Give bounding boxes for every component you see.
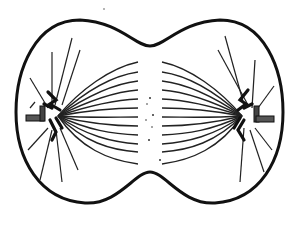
midzone-speckles (103, 8, 161, 161)
centriole-left (26, 106, 45, 121)
spindle-fibers-right (162, 62, 242, 164)
centriole-right (254, 106, 274, 122)
cell-membrane (16, 20, 283, 203)
spindle-fibers-left (58, 62, 138, 164)
cell-division-diagram: cell division (late anaphase / early tel… (0, 0, 300, 228)
diagram-canvas (0, 0, 300, 228)
